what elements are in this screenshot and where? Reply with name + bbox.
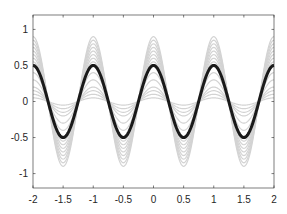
x-tick-label: -1.5 [55,194,73,205]
y-tick-label: -1 [19,168,28,179]
line-chart: -2-1.5-1-0.500.511.52 -1-0.500.51 [0,0,287,214]
gray-curve [33,94,274,108]
x-tick-label: 1 [211,194,217,205]
gray-curve [33,80,274,123]
gray-curve [33,98,274,105]
y-axis: -1-0.500.51 [11,24,274,179]
x-tick-label: -2 [29,194,38,205]
plot-lines [33,37,274,167]
x-tick-label: -1 [89,194,98,205]
y-tick-label: 0 [22,96,28,107]
y-tick-label: 1 [22,24,28,35]
x-tick-label: -0.5 [115,194,133,205]
gray-curve [33,73,274,131]
gray-curve [33,87,274,116]
x-tick-label: 1.5 [237,194,251,205]
x-tick-label: 0.5 [177,194,191,205]
y-tick-label: -0.5 [11,132,29,143]
x-tick-label: 2 [271,194,277,205]
axes-box [33,15,274,188]
y-tick-label: 0.5 [14,60,28,71]
highlight-curve [33,65,274,137]
x-tick-label: 0 [151,194,157,205]
